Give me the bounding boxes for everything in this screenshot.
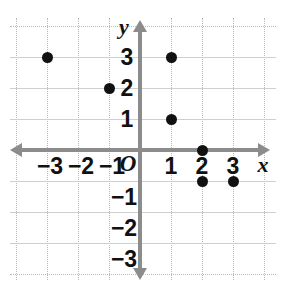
- x-tick-label: 1: [165, 155, 178, 178]
- y-tick-label: 2: [121, 77, 134, 100]
- x-axis-label: x: [258, 154, 269, 176]
- y-tick-label: −2: [111, 217, 137, 240]
- y-axis-label: y: [119, 16, 129, 38]
- x-tick-label: −3: [37, 155, 63, 178]
- x-tick-label: −1: [99, 155, 125, 178]
- x-tick-label: −2: [68, 155, 94, 178]
- y-tick-label: −3: [111, 248, 137, 271]
- x-tick-label: 2: [196, 155, 209, 178]
- label-layer: O x y −3−2−1123321−1−2−3: [0, 0, 281, 292]
- y-tick-label: 1: [121, 108, 134, 131]
- y-tick-label: −1: [111, 186, 137, 209]
- coordinate-plane-graph: O x y −3−2−1123321−1−2−3: [0, 0, 281, 292]
- y-tick-label: 3: [121, 46, 134, 69]
- x-tick-label: 3: [227, 155, 240, 178]
